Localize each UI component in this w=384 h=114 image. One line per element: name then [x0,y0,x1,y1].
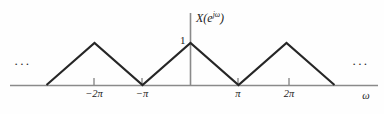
ellipsis-right: ··· [352,57,369,70]
tick-label-neg-pi: −π [136,89,148,100]
signal-label-exponent: jω [213,10,220,19]
tick-label-two-pi: 2π [284,89,295,100]
tick-label-pi: π [235,89,240,100]
amplitude-value-label: 1 [180,35,186,46]
tick-label-neg-two-pi: −2π [85,89,103,100]
dtft-spectrum-figure: X(ejω) 1 −2π −π π 2π ω ··· ··· [0,0,384,114]
signal-label-base: X(e [196,11,213,25]
plot-canvas [0,0,384,114]
ellipsis-left: ··· [14,57,31,70]
signal-label: X(ejω) [196,11,224,24]
omega-axis-label: ω [362,91,369,102]
signal-label-close: ) [220,11,224,25]
